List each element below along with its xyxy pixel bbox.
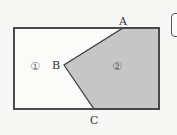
geometry-diagram: A B C ① ② xyxy=(0,0,177,135)
vertex-label-b: B xyxy=(52,59,60,72)
vertex-label-a: A xyxy=(118,15,128,28)
region-label-2: ② xyxy=(112,60,122,73)
region-label-1: ① xyxy=(30,60,40,73)
answer-box-edge xyxy=(171,13,177,37)
vertex-label-c: C xyxy=(90,114,98,127)
